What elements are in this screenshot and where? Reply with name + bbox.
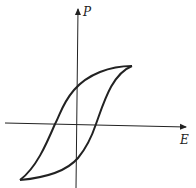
p-axis-label: P [82,5,92,19]
hysteresis-diagram: P E [0,0,196,188]
e-axis-label: E [179,133,189,147]
